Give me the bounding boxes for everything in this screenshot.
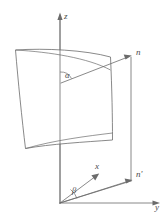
n-prime-shaft [60, 181, 129, 203]
n-prime-line [60, 179, 133, 204]
diagram-svg [0, 0, 167, 223]
n-prime-label: n' [136, 170, 142, 179]
n-vector-arrowhead [124, 55, 132, 60]
beta-angle-label: β [72, 186, 76, 195]
z-axis-arrowhead [57, 13, 62, 21]
figure-canvas: z n α x n' β y [0, 0, 167, 223]
y-axis [60, 201, 160, 206]
x-axis-shaft [60, 176, 96, 203]
curved-surface-patch [16, 49, 113, 148]
x-axis [60, 174, 99, 203]
alpha-angle-label: α [65, 71, 69, 80]
x-axis-arrowhead [91, 174, 99, 181]
y-axis-label: y [155, 203, 159, 212]
x-axis-label: x [95, 162, 99, 171]
n-vector-label: n [136, 48, 141, 57]
z-axis-label: z [64, 12, 68, 21]
